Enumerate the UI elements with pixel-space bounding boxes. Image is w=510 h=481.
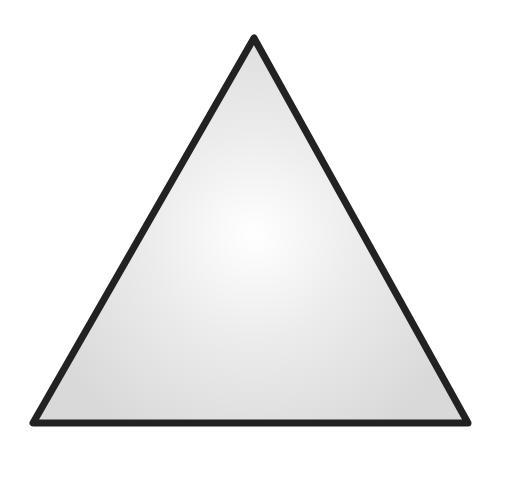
triangle-shape — [33, 38, 468, 423]
diagram-canvas — [0, 0, 510, 481]
triangle-figure — [0, 0, 510, 481]
